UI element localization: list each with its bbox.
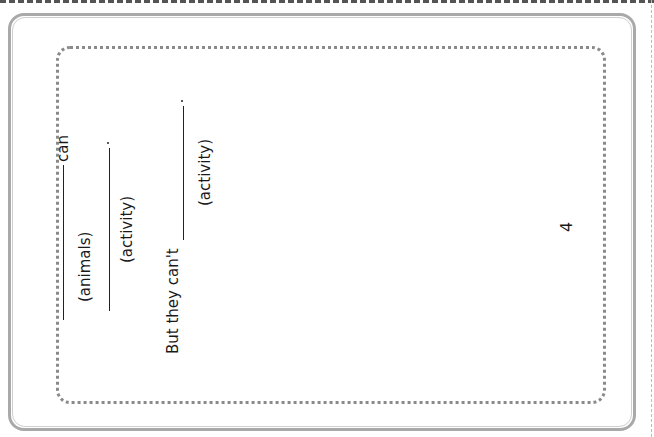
line2-period [107,142,109,144]
page-number: 4 [558,222,576,232]
blank-animals[interactable] [63,165,64,320]
line1-can-text: can [54,135,72,162]
blank-activity-1[interactable] [109,148,110,311]
dotted-border [56,46,606,404]
label-activity-2: (activity) [196,139,214,206]
label-animals: (animals) [76,232,94,302]
page-cut-edge-right [651,0,652,437]
label-activity-1: (activity) [118,196,136,263]
page-cut-edge-top [0,0,654,3]
line3-prefix-text: But they can't [164,248,182,354]
line3-period [181,100,183,102]
blank-activity-2[interactable] [183,106,184,240]
